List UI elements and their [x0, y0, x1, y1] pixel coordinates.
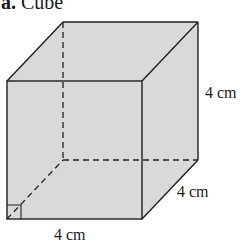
depth-label: 4 cm — [177, 183, 209, 201]
cube-diagram — [0, 0, 251, 244]
width-label: 4 cm — [54, 226, 86, 244]
height-label: 4 cm — [205, 84, 237, 102]
